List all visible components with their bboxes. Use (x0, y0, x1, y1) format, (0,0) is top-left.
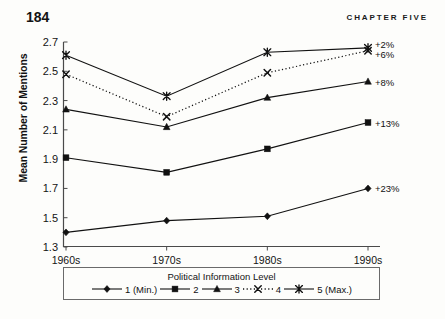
series-3 (63, 78, 372, 130)
x-tick-label: 1960s (52, 254, 81, 266)
legend-item-label: 3 (235, 284, 240, 295)
y-tick-label: 2.1 (43, 124, 58, 136)
series-1 (63, 185, 371, 236)
diamond-marker (91, 283, 123, 295)
legend-title: Political Information Level (64, 271, 379, 282)
legend-item-label: 4 (276, 284, 281, 295)
y-tick-label: 1.7 (43, 182, 58, 194)
legend-item-1[interactable]: 1 (Min.) (91, 283, 157, 295)
cross-marker (242, 283, 274, 295)
series-5 (63, 44, 372, 101)
page-number: 184 (26, 9, 49, 25)
legend-item-3[interactable]: 3 (201, 283, 240, 295)
page-canvas: 184 CHAPTER FIVE Mean Number of Mentions… (0, 0, 445, 319)
y-tick-label: 1.5 (43, 212, 58, 224)
legend-item-label: 5 (Max.) (317, 284, 352, 295)
x-tick-label: 1980s (253, 254, 282, 266)
series-end-label: +13% (375, 117, 400, 128)
y-tick-label: 1.9 (43, 153, 58, 165)
y-tick-label: 1.3 (43, 241, 58, 253)
y-tick-label: 2.3 (43, 95, 58, 107)
x-tick-label: 1970s (152, 254, 181, 266)
legend-item-5[interactable]: 5 (Max.) (283, 283, 352, 295)
legend-item-4[interactable]: 4 (242, 283, 281, 295)
series-4 (63, 48, 371, 120)
asterisk-marker (283, 283, 315, 295)
y-tick-label: 2.5 (43, 65, 58, 77)
y-tick-label: 2.7 (43, 36, 58, 48)
series-end-label: +8% (375, 76, 394, 87)
x-tick-label: 1990s (354, 254, 383, 266)
series-2 (63, 120, 371, 176)
running-head: CHAPTER FIVE (347, 13, 428, 22)
legend-item-label: 2 (193, 284, 198, 295)
plot-area: 2.72.52.32.11.91.71.51.3 1960s1970s1980s… (63, 42, 380, 247)
legend-items-row: 1 (Min.)2345 (Max.) (64, 283, 379, 295)
figure-caption-clipped (26, 313, 426, 319)
triangle-marker (201, 283, 233, 295)
square-marker (159, 283, 191, 295)
legend-item-2[interactable]: 2 (159, 283, 198, 295)
y-axis-title: Mean Number of Mentions (17, 43, 29, 193)
legend-item-label: 1 (Min.) (125, 284, 157, 295)
figure-container: Mean Number of Mentions 2.72.52.32.11.91… (0, 30, 445, 312)
chart-legend: Political Information Level 1 (Min.)2345… (63, 267, 380, 300)
series-end-label: +23% (375, 183, 400, 194)
series-end-label: +2% (375, 39, 394, 50)
line-chart-svg (63, 42, 380, 247)
series-end-label: +6% (375, 49, 394, 60)
